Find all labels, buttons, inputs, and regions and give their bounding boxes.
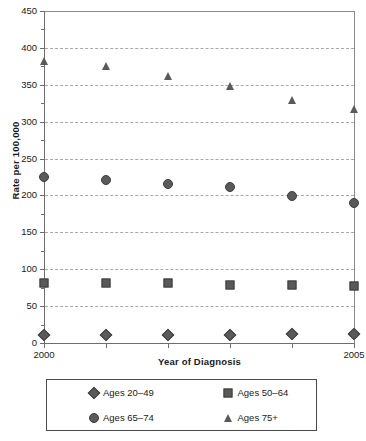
data-point-triangle [164,72,172,80]
legend-label: Ages 75+ [238,412,278,423]
y-axis-tick-label: 300 [0,117,37,127]
data-point-triangle [102,62,110,70]
legend-label: Ages 65–74 [103,412,154,423]
legend-item[interactable]: Ages 50–64 [182,387,317,398]
x-axis-tick [354,344,355,348]
data-point-triangle [350,105,358,113]
data-point-circle [225,182,235,192]
triangle-marker-icon [224,413,233,422]
data-point-square [40,279,49,288]
x-axis-tick [168,344,169,348]
y-axis-tick-label: 150 [0,227,37,237]
data-point-square [350,282,359,291]
y-axis-tick-label: 0 [0,338,37,348]
data-point-square [288,281,297,290]
data-point-circle [101,175,111,185]
legend-item[interactable]: Ages 75+ [182,412,317,423]
legend-label: Ages 20–49 [103,387,154,398]
data-point-square [164,279,173,288]
y-axis-tick-label: 100 [0,264,37,274]
data-point-circle [163,179,173,189]
legend-label: Ages 50–64 [238,387,289,398]
x-axis-title: Year of Diagnosis [44,356,355,367]
chart-figure: Rate per 100,000 05010015020025030035040… [0,0,366,441]
legend-item[interactable]: Ages 20–49 [47,387,182,398]
y-axis-tick-label: 400 [0,43,37,53]
y-axis-tick-label: 450 [0,6,37,16]
x-axis-line [44,343,355,344]
y-axis-tick-label: 350 [0,80,37,90]
x-axis-tick [230,344,231,348]
y-axis-tick-label: 200 [0,190,37,200]
data-point-square [226,281,235,290]
y-axis-tick-label: 50 [0,301,37,311]
data-point-triangle [288,96,296,104]
x-axis-tick [292,344,293,348]
data-point-circle [349,198,359,208]
plot-area [44,11,354,343]
data-point-circle [287,191,297,201]
legend-item[interactable]: Ages 65–74 [47,412,182,423]
plot-border-right [354,11,355,344]
x-axis-tick [44,344,45,348]
data-point-triangle [226,82,234,90]
legend: Ages 20–49Ages 50–64Ages 65–74Ages 75+ [46,379,317,431]
diamond-marker-icon [89,388,98,397]
y-axis-tick-label: 250 [0,154,37,164]
circle-marker-icon [89,413,98,422]
data-point-triangle [40,57,48,65]
data-point-square [102,279,111,288]
data-point-circle [39,172,49,182]
square-marker-icon [224,388,233,397]
x-axis-tick [106,344,107,348]
